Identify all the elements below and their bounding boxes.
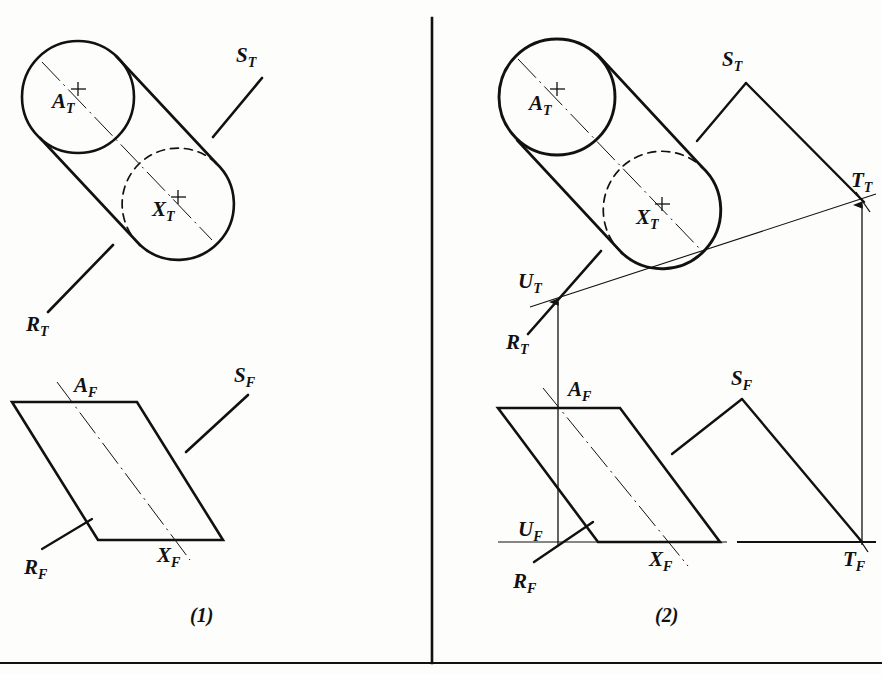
- leader-line-rt: [48, 245, 113, 312]
- label-uf: UF: [518, 517, 543, 544]
- axis-centerline-front-2: [543, 388, 688, 566]
- tick-mark-tt: [856, 192, 870, 212]
- panel1-front-view: AF XF SF RF: [12, 363, 256, 582]
- axis-centerline-front-1: [57, 382, 190, 560]
- label-rf2: RF: [512, 569, 537, 596]
- label-rt: RT: [25, 312, 50, 339]
- circle-at2: [499, 39, 615, 155]
- leader-line-rf: [42, 519, 92, 549]
- circle-at: [22, 41, 134, 153]
- panel2-top-view: AT XT ST RT UT TT: [499, 39, 876, 357]
- cylinder-element-lower-2: [517, 140, 622, 253]
- label-st2: ST: [722, 47, 744, 74]
- label-xf: XF: [156, 543, 181, 570]
- label-rf: RF: [23, 555, 48, 582]
- technical-drawing-canvas: AT XT ST RT AF XF SF RF (1): [0, 0, 882, 675]
- center-mark-at2: [550, 82, 565, 96]
- drawing-page: AT XT ST RT AF XF SF RF (1): [0, 0, 882, 675]
- label-tf: TF: [843, 547, 866, 574]
- center-mark-at: [71, 82, 86, 96]
- parallelogram-front-1: [12, 402, 223, 540]
- ray-sf-to-tf: [742, 399, 862, 542]
- label-xt: XT: [151, 197, 176, 224]
- circle-xt2-hidden-arc: [603, 151, 702, 253]
- panel1-top-view: AT XT ST RT: [22, 41, 262, 339]
- leader-line-st: [213, 78, 262, 137]
- label-tt: TT: [851, 168, 874, 195]
- center-mark-xt2: [655, 197, 670, 211]
- caption-2: (2): [655, 604, 678, 627]
- center-mark-xt: [171, 190, 186, 204]
- leader-line-sf2: [672, 399, 742, 454]
- leader-line-sf: [186, 395, 248, 452]
- label-xt2: XT: [635, 205, 660, 232]
- circle-xt-hidden-arc: [122, 148, 216, 245]
- label-sf2: SF: [731, 366, 753, 393]
- ray-st-to-tt: [746, 83, 864, 202]
- label-at2: AT: [527, 91, 553, 118]
- label-rt2: RT: [505, 330, 530, 357]
- caption-1: (1): [190, 604, 213, 627]
- label-xf2: XF: [648, 547, 673, 574]
- label-st: ST: [236, 43, 258, 70]
- label-ut: UT: [518, 269, 543, 296]
- label-sf: SF: [234, 363, 256, 390]
- leader-line-st2: [697, 83, 746, 141]
- label-af: AF: [72, 373, 98, 400]
- label-af2: AF: [566, 377, 592, 404]
- cylinder-element-lower: [40, 138, 140, 245]
- cylinder-element-upper: [116, 56, 216, 163]
